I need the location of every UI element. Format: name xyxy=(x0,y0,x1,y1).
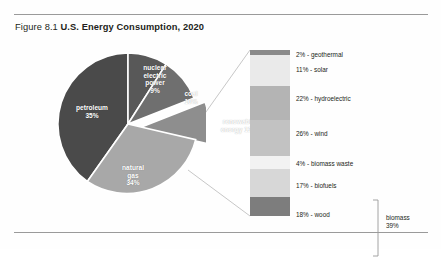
renewable-breakout-bar xyxy=(250,50,290,216)
figure-title-text: U.S. Energy Consumption, 2020 xyxy=(61,22,204,32)
figure-number: Figure 8.1 xyxy=(15,22,58,32)
figure-bottom-rule xyxy=(14,232,428,233)
bar-segment-biofuels[interactable] xyxy=(250,169,290,197)
breakout-label-wind: 26% - wind xyxy=(296,130,328,137)
biomass-group-label: biomass 39% xyxy=(386,214,410,230)
breakout-label-solar: 11% - solar xyxy=(296,66,328,73)
chart-area: petroleum 35% nuclear electric power 9% … xyxy=(0,42,441,226)
bar-segment-hydroelectric[interactable] xyxy=(250,86,290,120)
figure-title: Figure 8.1 U.S. Energy Consumption, 2020 xyxy=(15,22,204,32)
bar-segment-wind[interactable] xyxy=(250,120,290,156)
bar-segment-solar[interactable] xyxy=(250,55,290,85)
breakout-label-geothermal: 2% - geothermal xyxy=(296,51,343,58)
bar-segment-biomass-waste[interactable] xyxy=(250,156,290,169)
bar-segment-wood[interactable] xyxy=(250,197,290,216)
pie-label-coal: coal 10% xyxy=(176,90,206,105)
breakout-label-hydroelectric: 22% - hydroelectric xyxy=(296,95,351,102)
pie-chart: petroleum 35% nuclear electric power 9% … xyxy=(56,48,206,200)
pie-label-petroleum: petroleum 35% xyxy=(62,104,122,119)
figure-top-rule xyxy=(14,14,428,15)
breakout-label-wood: 18% - wood xyxy=(296,211,330,218)
breakout-label-biofuels: 17% - biofuels xyxy=(296,182,337,189)
breakout-label-biomass-waste: 4% - biomass waste xyxy=(296,160,353,167)
pie-label-natural-gas: natural gas 34% xyxy=(108,164,158,187)
biomass-group-bracket xyxy=(372,199,382,257)
pie-label-nuclear-electric-power: nuclear electric power 9% xyxy=(132,64,178,94)
